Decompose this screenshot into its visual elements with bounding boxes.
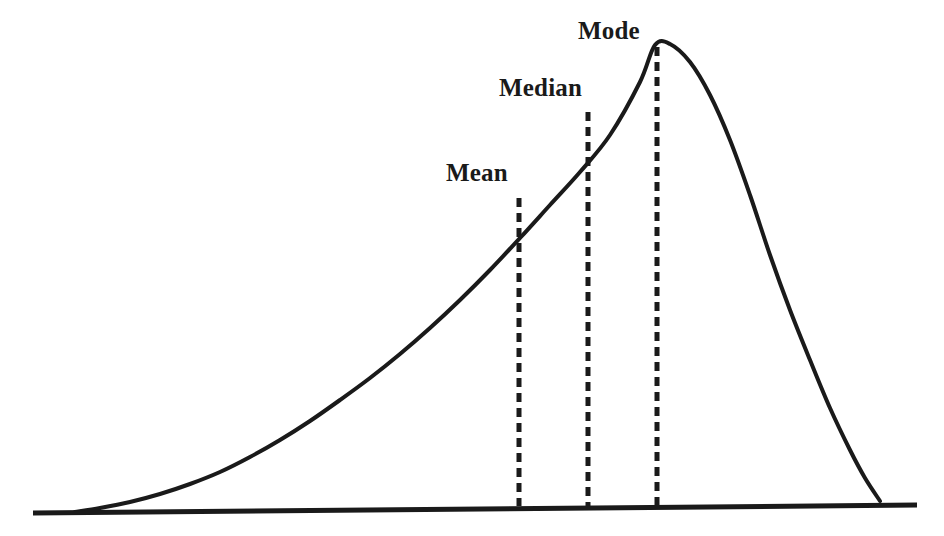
mean-label: Mean <box>446 160 508 185</box>
distribution-curve <box>75 41 880 512</box>
distribution-plot <box>0 0 944 536</box>
distribution-figure: Mean Median Mode <box>0 0 944 536</box>
baseline-axis <box>33 505 917 513</box>
mode-label: Mode <box>578 18 640 43</box>
median-label: Median <box>499 75 582 100</box>
